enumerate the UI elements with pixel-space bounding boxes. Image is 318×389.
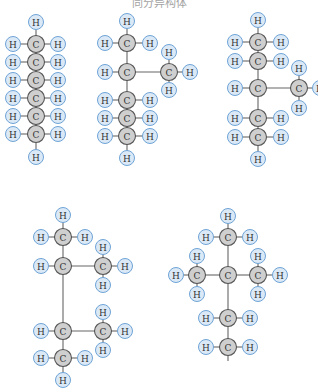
hydrogen-atom: H (221, 209, 236, 224)
svg-text:H: H (37, 262, 45, 272)
hydrogen-atom: H (243, 230, 258, 245)
svg-text:H: H (59, 376, 67, 386)
hydrogen-atom: H (243, 311, 258, 326)
hydrogen-atom: H (228, 111, 243, 126)
hydrogen-atom: H (34, 351, 49, 366)
hydrogen-atom: H (120, 151, 135, 166)
hydrogen-atom: H (199, 311, 214, 326)
hydrogen-atom: H (34, 230, 49, 245)
hydrogen-atom: H (274, 130, 289, 145)
svg-text:C: C (33, 40, 40, 50)
hydrogen-atom: H (98, 36, 113, 51)
carbon-atom: C (55, 229, 72, 246)
carbon-atom: C (220, 310, 237, 327)
svg-text:H: H (231, 114, 239, 124)
carbon-atom: C (250, 267, 267, 284)
hydrogen-atom: H (228, 54, 243, 69)
carbon-atom: C (28, 108, 45, 125)
svg-text:H: H (202, 314, 210, 324)
hydrogen-atom: H (274, 111, 289, 126)
carbon-atom: C (250, 110, 267, 127)
carbon-atom: C (220, 229, 237, 246)
svg-text:H: H (172, 271, 180, 281)
carbon-atom: C (220, 267, 237, 284)
hydrogen-atom: H (228, 35, 243, 50)
hydrogen-atom: H (96, 278, 111, 293)
hydrogen-atom: H (292, 61, 307, 76)
svg-text:C: C (255, 133, 262, 143)
svg-text:H: H (9, 130, 17, 140)
carbon-atom: C (28, 54, 45, 71)
svg-text:H: H (202, 343, 210, 353)
svg-text:H: H (277, 114, 285, 124)
svg-text:H: H (277, 38, 285, 48)
svg-text:H: H (165, 86, 173, 96)
carbon-atom: C (250, 80, 267, 97)
svg-text:H: H (231, 38, 239, 48)
svg-text:C: C (33, 76, 40, 86)
svg-text:C: C (225, 314, 232, 324)
hydrogen-atom: H (162, 83, 177, 98)
hydrogen-atom: H (190, 287, 205, 302)
svg-text:H: H (277, 57, 285, 67)
hydrogen-atom: H (6, 55, 21, 70)
molecule-hexane: CCCCCCHHHHHHHHHHHHHH (6, 15, 66, 165)
carbon-atom: C (55, 323, 72, 340)
hydrogen-atom: H (143, 36, 158, 51)
carbon-atom: C (95, 258, 112, 275)
hydrogen-atom: H (6, 73, 21, 88)
svg-text:H: H (254, 252, 262, 262)
svg-text:H: H (224, 212, 232, 222)
isomer-diagram: CCCCCCHHHHHHHHHHHHHHCCCCCCHHHHHHHHHHHHHH… (0, 0, 318, 389)
hydrogen-atom: H (98, 129, 113, 144)
svg-text:C: C (225, 343, 232, 353)
hydrogen-atom: H (98, 65, 113, 80)
svg-text:H: H (246, 314, 254, 324)
carbon-atom: C (250, 129, 267, 146)
hydrogen-atom: H (120, 14, 135, 29)
hydrogen-atom: H (96, 343, 111, 358)
hydrogen-atom: H (228, 130, 243, 145)
svg-text:H: H (99, 308, 107, 318)
svg-text:C: C (124, 114, 131, 124)
svg-text:H: H (123, 17, 131, 27)
hydrogen-atom: H (34, 324, 49, 339)
svg-text:C: C (225, 271, 232, 281)
molecule-2,3-dimethylbutane: CCCCCCHHHHHHHHHHHHHH (34, 208, 133, 388)
svg-text:C: C (60, 327, 67, 337)
svg-text:H: H (231, 133, 239, 143)
carbon-atom: C (119, 35, 136, 52)
svg-text:H: H (295, 104, 303, 114)
carbon-atom: C (95, 323, 112, 340)
carbon-atom: C (161, 64, 178, 81)
svg-text:C: C (124, 96, 131, 106)
hydrogen-atom: H (292, 101, 307, 116)
hydrogen-atom: H (251, 152, 266, 167)
hydrogen-atom: H (34, 259, 49, 274)
carbon-atom: C (55, 350, 72, 367)
hydrogen-atom: H (51, 37, 66, 52)
hydrogen-atom: H (143, 129, 158, 144)
hydrogen-atom: H (118, 324, 133, 339)
svg-text:H: H (99, 243, 107, 253)
svg-text:H: H (54, 112, 62, 122)
carbon-atom: C (28, 72, 45, 89)
hydrogen-atom: H (162, 45, 177, 60)
svg-text:H: H (231, 84, 239, 94)
carbon-atom: C (55, 258, 72, 275)
svg-text:H: H (186, 68, 194, 78)
svg-text:C: C (60, 233, 67, 243)
svg-text:C: C (255, 271, 262, 281)
svg-text:H: H (9, 94, 17, 104)
svg-text:C: C (255, 57, 262, 67)
svg-text:H: H (123, 154, 131, 164)
carbon-atom: C (119, 64, 136, 81)
hydrogen-atom: H (29, 15, 44, 30)
svg-text:H: H (254, 16, 262, 26)
svg-text:C: C (124, 39, 131, 49)
svg-text:H: H (276, 271, 284, 281)
svg-text:H: H (9, 58, 17, 68)
svg-text:C: C (33, 112, 40, 122)
hydrogen-atom: H (190, 249, 205, 264)
carbon-atom: C (220, 339, 237, 356)
